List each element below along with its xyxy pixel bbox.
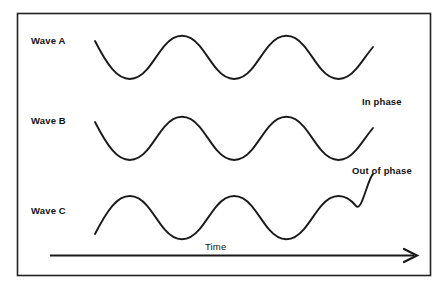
wave-b-label: Wave B [31,115,66,126]
wave-c-label: Wave C [31,205,66,216]
in-phase-label: In phase [362,96,402,107]
time-axis-label: Time [205,241,226,252]
wave-b-curve [95,117,373,160]
wave-a-label: Wave A [31,35,66,46]
time-axis-arrow [50,249,417,262]
wave-c-curve [95,174,373,239]
out-of-phase-label: Out of phase [352,165,412,176]
wave-a-curve [95,36,373,79]
wave-phase-figure: Wave A Wave B Wave C In phase Out of pha… [0,0,448,289]
